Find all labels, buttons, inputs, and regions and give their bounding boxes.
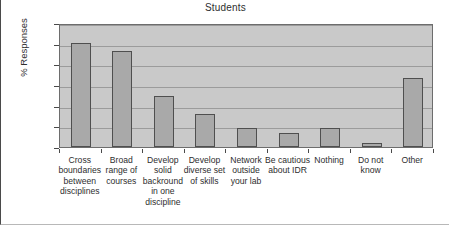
gridline [60,25,432,26]
bar [320,128,340,147]
x-tick-mark [225,149,226,153]
y-tick-mark [54,127,59,128]
bar [154,96,174,147]
bar [403,78,423,147]
x-tick-mark [433,149,434,153]
x-tick-mark [350,149,351,153]
y-tick-mark [54,45,59,46]
y-tick-mark [54,86,59,87]
plot-area [59,24,433,148]
bar [237,128,257,147]
y-tick-mark [54,65,59,66]
x-tick-mark [184,149,185,153]
bar [279,133,299,147]
chart-figure: Students % Responses 0.05.010.015.020.02… [0,0,449,225]
gridline [60,46,432,47]
x-tick-mark [308,149,309,153]
y-tick-mark [54,107,59,108]
x-tick-mark [142,149,143,153]
y-tick-mark [54,24,59,25]
bar [195,114,215,147]
y-axis-title: % Responses [18,0,29,108]
x-tick-label: Other [387,155,437,165]
bar [362,143,382,147]
x-tick-mark [267,149,268,153]
bar [71,43,91,147]
x-tick-mark [101,149,102,153]
bar [112,51,132,147]
chart-title: Students [1,2,449,13]
x-tick-mark [391,149,392,153]
x-tick-mark [59,149,60,153]
